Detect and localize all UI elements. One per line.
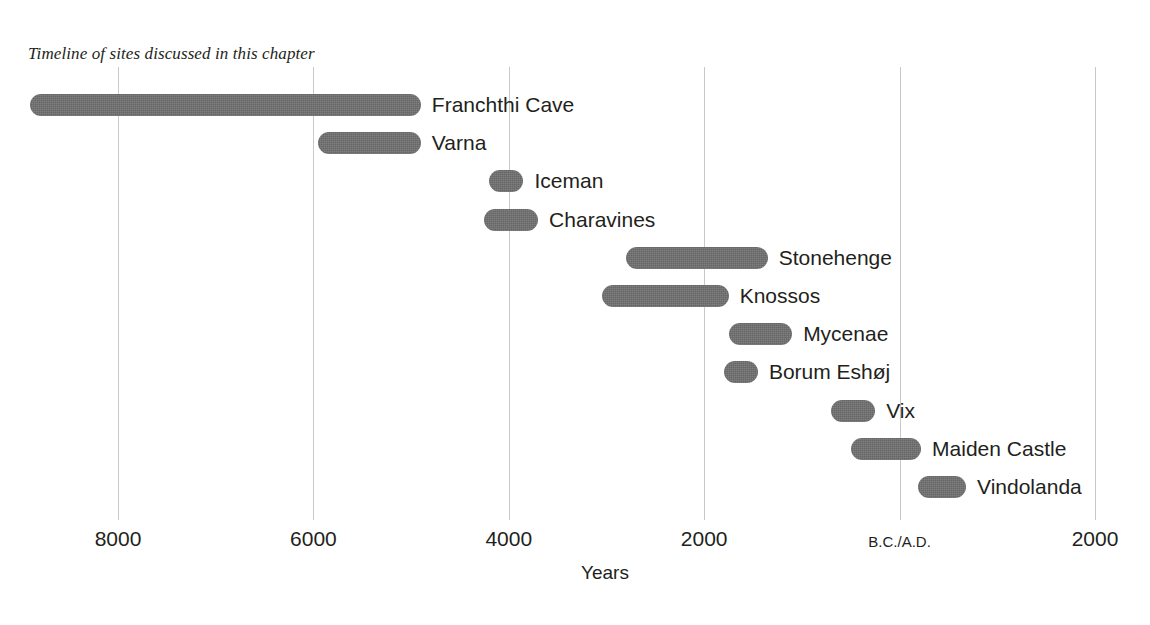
timeline-bar [318, 132, 421, 154]
timeline-bar-label: Vix [886, 397, 915, 425]
timeline-bar-label: Vindolanda [977, 473, 1082, 501]
timeline-bar-label: Maiden Castle [932, 435, 1066, 463]
timeline-bar-label: Mycenae [803, 320, 888, 348]
timeline-bar-row: Maiden Castle [0, 438, 1150, 462]
timeline-bar [484, 209, 538, 231]
timeline-bar-row: Iceman [0, 170, 1150, 194]
timeline-bar-label: Varna [432, 129, 486, 157]
x-tick-label: B.C./A.D. [868, 533, 931, 550]
timeline-bar-row: Stonehenge [0, 247, 1150, 271]
timeline-bar-label: Iceman [534, 167, 603, 195]
timeline-bar-row: Vix [0, 400, 1150, 424]
timeline-bar [602, 285, 729, 307]
timeline-bar-row: Borum Eshøj [0, 361, 1150, 385]
timeline-bar-row: Varna [0, 132, 1150, 156]
timeline-bar-label: Borum Eshøj [769, 358, 890, 386]
timeline-bar-label: Stonehenge [779, 244, 892, 272]
timeline-chart: Timeline of sites discussed in this chap… [0, 0, 1150, 625]
x-tick-label: 2000 [1072, 527, 1119, 551]
timeline-bar [30, 94, 421, 116]
plot-area: Franchthi CaveVarnaIcemanCharavinesStone… [0, 0, 1150, 625]
x-tick-label: 2000 [681, 527, 728, 551]
timeline-bar-row: Vindolanda [0, 476, 1150, 500]
timeline-bar [489, 170, 523, 192]
timeline-bar-row: Franchthi Cave [0, 94, 1150, 118]
timeline-bar [729, 323, 793, 345]
timeline-bar-row: Mycenae [0, 323, 1150, 347]
timeline-bar [831, 400, 875, 422]
timeline-bar-row: Charavines [0, 209, 1150, 233]
timeline-bar-label: Franchthi Cave [432, 91, 574, 119]
timeline-bar-label: Charavines [549, 206, 655, 234]
timeline-bar [724, 361, 758, 383]
timeline-bar-label: Knossos [740, 282, 821, 310]
timeline-bar-row: Knossos [0, 285, 1150, 309]
timeline-bar [918, 476, 966, 498]
x-axis-title-label: Years [581, 562, 629, 583]
x-axis-title: Years [0, 562, 1150, 584]
timeline-bar [851, 438, 921, 460]
x-tick-label: 4000 [485, 527, 532, 551]
x-tick-label: 6000 [290, 527, 337, 551]
x-tick-label: 8000 [95, 527, 142, 551]
timeline-bar [626, 247, 768, 269]
